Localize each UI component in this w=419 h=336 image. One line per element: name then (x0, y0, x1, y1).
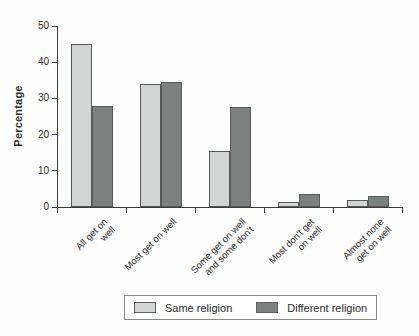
bar-same-religion-2 (209, 151, 230, 207)
x-tick-mark (402, 208, 403, 213)
y-tick-label: 30 (19, 93, 49, 103)
bar-different-religion-4 (368, 196, 389, 207)
y-tick-mark (52, 26, 57, 27)
x-tick-mark (57, 208, 58, 213)
plot-area: 01020304050All get on wellMost get on we… (57, 26, 402, 207)
y-tick-mark (52, 62, 57, 63)
x-category-label: Almost none get on well (340, 216, 393, 269)
y-tick-label: 50 (19, 21, 49, 31)
bar-same-religion-3 (278, 202, 299, 207)
legend-item-different-religion: Different religion (256, 302, 367, 314)
y-tick-mark (52, 170, 57, 171)
x-tick-mark (264, 208, 265, 213)
y-tick-label: 10 (19, 166, 49, 176)
bar-same-religion-0 (71, 44, 92, 207)
bar-different-religion-3 (299, 194, 320, 207)
y-tick-label: 20 (19, 130, 49, 140)
x-category-label: All get on well (70, 216, 117, 263)
bar-different-religion-2 (230, 107, 251, 207)
legend-item-same-religion: Same religion (134, 302, 232, 314)
x-category-label: Most don't get on well (267, 216, 325, 274)
x-axis-line (57, 207, 403, 208)
legend: Same religion Different religion (124, 295, 377, 320)
x-category-label: Most get on well (122, 216, 178, 272)
x-category-label: Some get on well and some don't (188, 216, 255, 283)
y-tick-label: 0 (19, 202, 49, 212)
bar-different-religion-0 (92, 106, 113, 207)
legend-swatch-different-religion (256, 302, 278, 313)
x-tick-mark (126, 208, 127, 213)
legend-swatch-same-religion (134, 302, 156, 313)
legend-label-same-religion: Same religion (165, 302, 232, 314)
x-tick-mark (333, 208, 334, 213)
y-tick-label: 40 (19, 57, 49, 67)
bar-different-religion-1 (161, 82, 182, 207)
y-tick-mark (52, 98, 57, 99)
y-tick-mark (52, 134, 57, 135)
y-axis-title: Percentage (12, 71, 24, 161)
bar-chart-figure: Percentage 01020304050All get on wellMos… (0, 0, 419, 336)
y-axis-line (57, 26, 58, 208)
bar-same-religion-4 (347, 200, 368, 207)
x-tick-mark (195, 208, 196, 213)
legend-label-different-religion: Different religion (287, 302, 367, 314)
bar-same-religion-1 (140, 84, 161, 207)
